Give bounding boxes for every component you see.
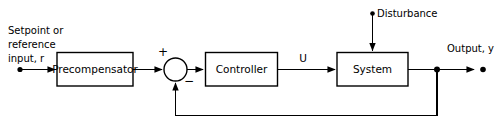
reference-input-label-line3: input, r bbox=[8, 53, 45, 64]
disturbance-label: Disturbance bbox=[377, 8, 438, 19]
system-block[interactable]: System bbox=[337, 53, 408, 87]
block-diagram-canvas: Setpoint or reference input, r Precompen… bbox=[0, 0, 501, 126]
precompensator-block[interactable]: Precompensator bbox=[52, 53, 138, 87]
output-label: Output, y bbox=[447, 43, 494, 54]
reference-input-label-line2: reference bbox=[8, 39, 56, 50]
output-terminal-dot bbox=[480, 67, 486, 73]
output-group: Output, y bbox=[408, 43, 494, 73]
precompensator-block-label: Precompensator bbox=[52, 63, 138, 75]
system-block-label: System bbox=[353, 63, 392, 75]
controller-block[interactable]: Controller bbox=[206, 53, 278, 87]
disturbance-input-group: Disturbance bbox=[370, 8, 437, 51]
control-signal-label: U bbox=[299, 52, 307, 64]
control-signal-group: U bbox=[278, 52, 336, 70]
summing-junction-plus-sign: + bbox=[158, 45, 168, 59]
summing-junction-minus-sign: − bbox=[184, 74, 194, 88]
control-system-block-diagram: Setpoint or reference input, r Precompen… bbox=[0, 0, 501, 126]
reference-input-label-line1: Setpoint or bbox=[8, 25, 64, 36]
summing-junction[interactable]: + − bbox=[158, 45, 194, 88]
controller-block-label: Controller bbox=[216, 63, 268, 75]
